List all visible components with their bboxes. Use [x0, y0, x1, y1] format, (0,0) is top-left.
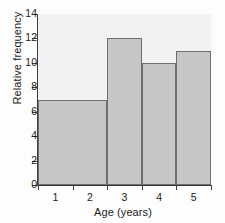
- y-tick-label: 0: [11, 178, 37, 190]
- bar: [176, 51, 211, 185]
- x-tick-mark: [107, 185, 108, 190]
- plot-area: [38, 14, 211, 185]
- y-axis-title: Relative frequency: [11, 0, 23, 128]
- x-tick-mark: [211, 185, 212, 190]
- x-tick-label: 2: [78, 191, 102, 203]
- x-axis-line: [37, 185, 211, 186]
- x-tick-label: 3: [113, 191, 137, 203]
- x-tick-mark: [142, 185, 143, 190]
- y-axis-line: [37, 14, 38, 186]
- x-tick-mark: [73, 185, 74, 190]
- x-tick-mark: [176, 185, 177, 190]
- x-tick-label: 1: [43, 191, 67, 203]
- bar: [107, 38, 142, 185]
- histogram-chart: 02468101214 12345 Relative frequency Age…: [0, 0, 225, 223]
- x-tick-label: 4: [147, 191, 171, 203]
- bar: [38, 100, 107, 186]
- y-tick-label: 4: [11, 129, 37, 141]
- y-tick-label: 2: [11, 154, 37, 166]
- x-axis-title: Age (years): [37, 206, 209, 218]
- x-tick-mark: [38, 185, 39, 190]
- bar: [142, 63, 177, 185]
- x-tick-label: 5: [182, 191, 206, 203]
